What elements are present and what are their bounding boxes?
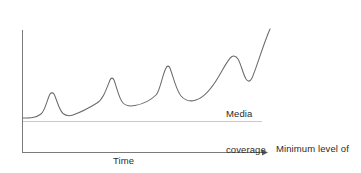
media-coverage-label-line1: Media	[226, 108, 266, 120]
media-coverage-label-line2: coverage	[226, 144, 266, 156]
noise-level-label-line1: Minimum level of	[276, 143, 349, 155]
media-coverage-label: Media coverage	[226, 84, 266, 173]
media-coverage-figure: Media coverage Minimum level of coverage…	[0, 0, 361, 173]
noise-level-label: Minimum level of coverage (noise)	[276, 119, 349, 173]
x-axis-label: Time	[113, 155, 134, 167]
